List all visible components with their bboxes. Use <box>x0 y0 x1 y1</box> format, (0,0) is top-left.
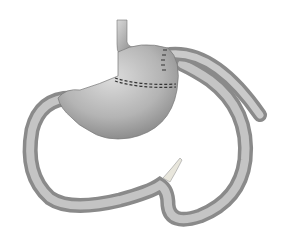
stomach <box>58 45 178 139</box>
appendage <box>163 158 182 182</box>
gastric-bypass-diagram <box>0 0 285 251</box>
